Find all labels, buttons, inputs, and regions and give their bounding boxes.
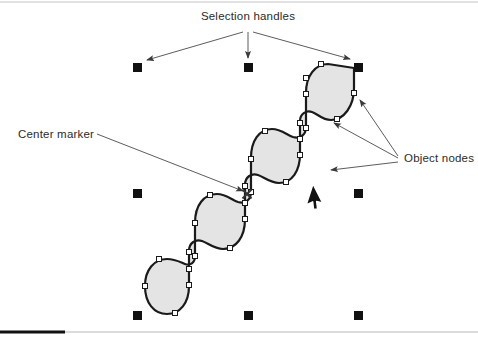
object-node[interactable]	[352, 91, 357, 96]
label-center-marker: Center marker	[18, 128, 94, 140]
figure-canvas: Selection handles Center marker Object n…	[0, 0, 478, 339]
object-node[interactable]	[193, 221, 198, 226]
leader-line-to-top-right	[253, 32, 350, 59]
object-node[interactable]	[228, 246, 233, 251]
object-node[interactable]	[335, 117, 340, 122]
object-node[interactable]	[249, 157, 254, 162]
object-node[interactable]	[187, 250, 192, 255]
object-node[interactable]	[284, 180, 289, 185]
selection-handle-middle-left[interactable]	[133, 189, 142, 198]
object-node[interactable]	[298, 137, 303, 142]
selection-handle-bottom-right[interactable]	[354, 311, 363, 320]
object-node[interactable]	[243, 217, 248, 222]
object-node[interactable]	[157, 257, 162, 262]
selection-handle-middle-right[interactable]	[354, 189, 363, 198]
object-node[interactable]	[298, 153, 303, 158]
object-node[interactable]	[304, 92, 309, 97]
label-object-nodes: Object nodes	[404, 152, 474, 164]
object-node[interactable]	[304, 76, 309, 81]
leader-line-to-center-x	[97, 134, 243, 191]
object-node[interactable]	[298, 121, 303, 126]
object-node[interactable]	[208, 193, 213, 198]
object-node[interactable]	[193, 254, 198, 259]
label-selection-handles: Selection handles	[201, 10, 295, 22]
selection-handle-bottom-left[interactable]	[133, 311, 142, 320]
mouse-pointer-icon	[306, 184, 328, 211]
leader-line-to-node-lower	[331, 162, 398, 170]
leader-lines-group	[97, 32, 398, 191]
object-node[interactable]	[304, 126, 309, 131]
object-node[interactable]	[243, 201, 248, 206]
vector-illustration: Selection handles Center marker Object n…	[0, 0, 478, 339]
selection-handle-bottom-center[interactable]	[244, 311, 253, 320]
object-node[interactable]	[187, 283, 192, 288]
selection-handle-top-center[interactable]	[244, 63, 253, 72]
selection-handle-top-left[interactable]	[133, 63, 142, 72]
leader-line-to-node-mid	[334, 123, 398, 158]
page-rules	[0, 2, 478, 332]
object-node[interactable]	[319, 62, 324, 67]
selection-handle-top-right[interactable]	[354, 63, 363, 72]
object-node[interactable]	[173, 311, 178, 316]
object-node[interactable]	[263, 129, 268, 134]
object-node[interactable]	[143, 284, 148, 289]
object-node[interactable]	[243, 184, 248, 189]
mouse-pointer-arrow	[306, 184, 328, 211]
leader-line-to-top-left	[147, 32, 243, 60]
object-node[interactable]	[187, 267, 192, 272]
